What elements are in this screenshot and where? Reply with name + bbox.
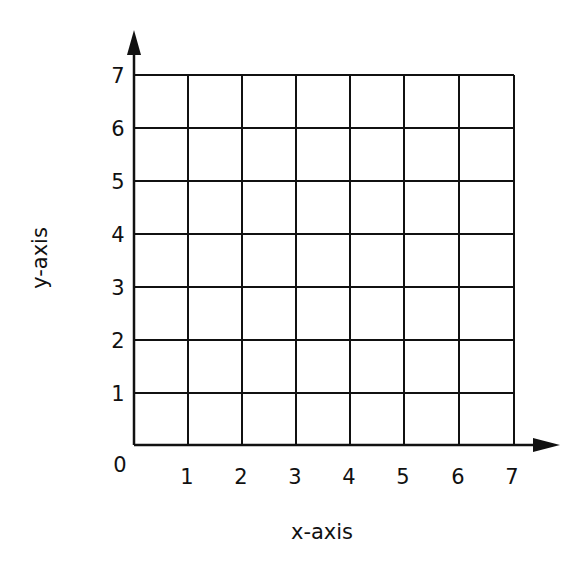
x-tick-3: 3 xyxy=(288,465,301,489)
x-axis-label: x-axis xyxy=(291,520,353,544)
y-tick-3: 3 xyxy=(111,276,124,300)
y-tick-7: 7 xyxy=(111,64,124,88)
x-tick-6: 6 xyxy=(451,465,464,489)
x-tick-1: 1 xyxy=(180,465,193,489)
y-tick-2: 2 xyxy=(111,329,124,353)
y-axis-label: y-axis xyxy=(28,227,52,289)
x-tick-4: 4 xyxy=(342,465,355,489)
coordinate-grid-diagram: 7 6 5 4 3 2 1 0 1 2 3 4 5 6 7 x-axis y-a… xyxy=(0,0,576,565)
y-axis-arrow-icon xyxy=(127,30,141,55)
x-tick-2: 2 xyxy=(234,465,247,489)
x-tick-5: 5 xyxy=(396,465,409,489)
y-tick-6: 6 xyxy=(111,117,124,141)
y-tick-5: 5 xyxy=(111,170,124,194)
y-tick-labels: 7 6 5 4 3 2 1 xyxy=(111,64,124,406)
origin-label: 0 xyxy=(113,453,126,477)
x-axis-line xyxy=(134,438,560,452)
y-tick-1: 1 xyxy=(111,382,124,406)
y-axis-line xyxy=(127,30,141,445)
x-tick-labels: 1 2 3 4 5 6 7 xyxy=(180,465,518,489)
x-tick-7: 7 xyxy=(505,465,518,489)
y-tick-4: 4 xyxy=(111,223,124,247)
grid xyxy=(134,75,514,445)
x-axis-arrow-icon xyxy=(533,438,560,452)
